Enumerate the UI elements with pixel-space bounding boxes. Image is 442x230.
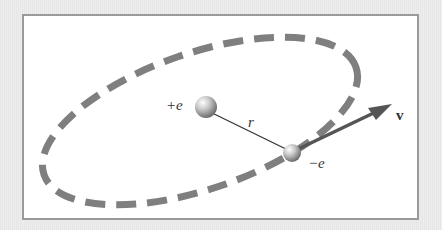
electron-sphere <box>283 144 301 162</box>
radius-label: r <box>248 114 254 131</box>
diagram-canvas <box>0 0 442 230</box>
orbit-ellipse <box>22 3 378 230</box>
nucleus-sphere <box>195 96 217 118</box>
electron-charge-label: −e <box>308 155 325 172</box>
nucleus-charge-label: +e <box>166 97 183 114</box>
velocity-label: v⃗ <box>396 107 415 124</box>
